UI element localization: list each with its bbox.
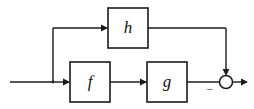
block-diagram-svg: h f g −: [0, 0, 254, 109]
arrow-into-h-icon: [101, 25, 108, 32]
block-diagram-canvas: h f g −: [0, 0, 254, 109]
summing-junction[interactable]: −: [207, 76, 233, 96]
arrow-output-icon: [241, 79, 248, 86]
branch-point-dot: [52, 81, 55, 84]
block-g[interactable]: g: [147, 62, 187, 102]
block-h[interactable]: h: [108, 8, 148, 48]
arrow-into-g-icon: [140, 79, 147, 86]
block-f[interactable]: f: [70, 62, 110, 102]
block-h-label: h: [124, 18, 133, 37]
block-g-label: g: [163, 72, 172, 91]
minus-sign-label: −: [207, 82, 214, 96]
summing-junction-circle: [220, 76, 233, 89]
arrow-into-f-icon: [63, 79, 70, 86]
